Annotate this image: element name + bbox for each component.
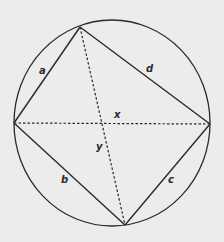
- diagonal-y: [80, 27, 125, 225]
- label-d: d: [146, 63, 154, 74]
- side-b: [14, 123, 125, 225]
- label-y: y: [96, 141, 103, 152]
- label-a: a: [39, 65, 46, 76]
- cyclic-quadrilateral-diagram: a d c b x y: [0, 0, 224, 242]
- label-b: b: [61, 174, 68, 185]
- diagonal-x: [14, 123, 210, 124]
- side-a: [14, 27, 80, 123]
- label-x: x: [113, 109, 121, 120]
- diagram-canvas: a d c b x y: [0, 0, 224, 242]
- label-c: c: [168, 174, 174, 185]
- side-d: [80, 27, 210, 124]
